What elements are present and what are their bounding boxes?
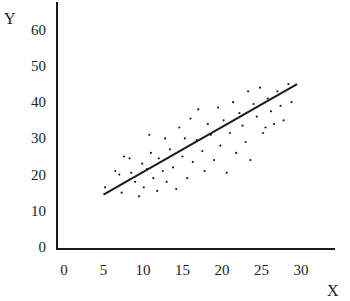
data-point [290,101,292,103]
data-point [104,186,106,188]
data-point [169,148,171,150]
data-point [150,152,152,154]
y-tick-label: 0 [39,239,47,255]
data-point [276,90,278,92]
data-point [184,137,186,139]
data-point [172,166,174,168]
chart-canvas: 0102030405060 051015202530 Y X [0,0,350,301]
x-axis-label: X [327,282,339,299]
data-point [162,170,164,172]
x-tick-label: 0 [60,262,68,278]
data-point [229,132,231,134]
data-point [152,177,154,179]
data-point [121,192,123,194]
data-point [130,172,132,174]
data-point [148,134,150,136]
x-tick-label: 30 [294,262,309,278]
data-point [287,83,289,85]
data-point [253,103,255,105]
x-tick-label: 5 [100,262,108,278]
y-tick-label: 50 [31,58,46,74]
data-point [259,87,261,89]
data-point [134,181,136,183]
y-tick-labels: 0102030405060 [31,22,46,255]
data-point [181,155,183,157]
x-tick-label: 10 [136,262,151,278]
data-point [213,159,215,161]
data-point [223,119,225,121]
data-point [186,177,188,179]
data-point [143,186,145,188]
data-point [166,181,168,183]
data-point [123,155,125,157]
data-point [207,123,209,125]
data-point [264,126,266,128]
x-tick-label: 15 [175,262,190,278]
data-point [138,195,140,197]
data-point [238,112,240,114]
data-point [141,163,143,165]
data-point [235,152,237,154]
data-point [189,117,191,119]
x-tick-labels: 051015202530 [60,262,308,278]
data-point [256,116,258,118]
data-point [245,141,247,143]
data-point [262,132,264,134]
data-point [249,159,251,161]
data-point [279,105,281,107]
data-point [204,170,206,172]
data-point [283,119,285,121]
y-tick-label: 40 [31,94,46,110]
data-point [158,157,160,159]
data-point [226,172,228,174]
scatter-chart: 0102030405060 051015202530 Y X [0,0,350,301]
data-point [247,90,249,92]
regression-line [104,84,298,194]
data-point [270,110,272,112]
y-tick-label: 60 [31,22,46,38]
data-point [219,145,221,147]
data-point [217,107,219,109]
data-point [178,126,180,128]
data-point [118,174,120,176]
data-point [164,137,166,139]
data-point [156,190,158,192]
data-point [273,123,275,125]
data-point [241,125,243,127]
data-point [129,157,131,159]
data-point [175,188,177,190]
x-tick-label: 25 [254,262,269,278]
data-point [192,161,194,163]
y-tick-label: 30 [31,130,46,146]
y-axis-label: Y [4,10,16,27]
data-point [232,101,234,103]
x-tick-label: 20 [215,262,230,278]
data-point [197,108,199,110]
y-tick-label: 20 [31,167,46,183]
data-point [201,150,203,152]
data-point [114,170,116,172]
y-tick-label: 10 [31,203,46,219]
